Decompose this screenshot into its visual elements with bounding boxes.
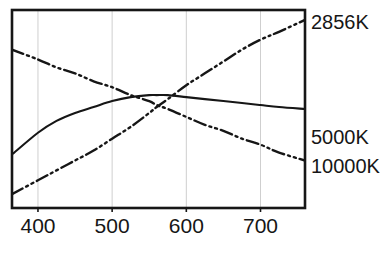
data-curves [12, 20, 305, 194]
x-tick-label-600: 600 [169, 214, 204, 238]
plot-frame-border [12, 10, 305, 208]
x-tick-label-700: 700 [243, 214, 278, 238]
x-tick-label-400: 400 [20, 214, 55, 238]
x-gridlines [38, 10, 261, 208]
label-5000k: 5000K [311, 126, 369, 149]
label-10000k: 10000K [311, 155, 380, 178]
figure-caption-sliver [0, 258, 385, 262]
spectral-power-chart-figure: 400500600700 2856K5000K10000K [0, 0, 385, 262]
label-2856k: 2856K [311, 11, 369, 34]
x-tick-label-500: 500 [95, 214, 130, 238]
